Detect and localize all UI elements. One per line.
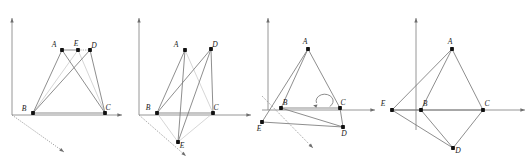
panel-4-edge-ED [392,110,453,148]
panel-4-label-E: E [380,99,386,108]
geometry-figure: AEBCDADBCEABCEDAEBCD [0,0,532,162]
panel-4-vertex-B [419,108,423,112]
panel-4-label-B: B [423,99,428,108]
panel-4-edge-CD [453,110,483,148]
panel-4-label-D: D [454,146,461,155]
panel-4-label-C: C [484,99,490,108]
panel-4-x-axis-arrowhead-icon [520,108,525,111]
panel-4-label-A: A [447,37,453,46]
panel-4-vertex-C [481,108,485,112]
panel-4-edge-AC [452,49,483,110]
panel-4-y-axis-arrowhead-icon [414,18,417,23]
panel-4-vertex-E [390,108,394,112]
panel-4-vertex-A [450,47,454,51]
panel-4-edge-BD [421,110,453,148]
panel-4: AEBCD [0,0,532,162]
